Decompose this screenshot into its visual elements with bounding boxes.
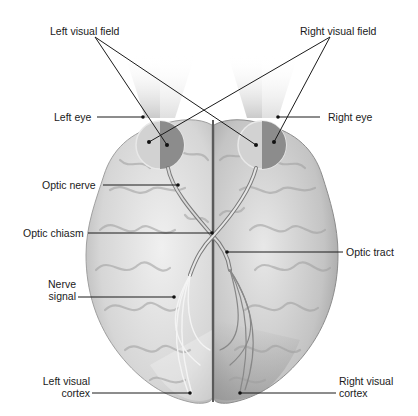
left-eye [136,121,184,169]
label-optic-tract: Optic tract [346,246,394,258]
label-left-visual-cortex: Left visual cortex [20,375,90,399]
label-left-visual-cortex-line1: Left visual [20,375,90,387]
label-optic-nerve: Optic nerve [42,179,96,191]
label-right-visual-field: Right visual field [300,25,376,37]
label-left-visual-cortex-line2: cortex [20,387,90,399]
label-right-visual-cortex-line2: cortex [339,387,393,399]
label-right-visual-cortex-line1: Right visual [339,375,393,387]
label-nerve-signal: Nerve signal [40,278,76,302]
label-right-visual-cortex: Right visual cortex [339,375,393,399]
right-eye [238,121,286,169]
brain-diagram [0,0,418,416]
label-optic-chiasm: Optic chiasm [23,227,84,239]
label-nerve-signal-line1: Nerve [40,278,76,290]
label-left-visual-field: Left visual field [50,25,119,37]
label-right-eye: Right eye [328,111,372,123]
label-nerve-signal-line2: signal [40,290,76,302]
label-left-eye: Left eye [54,111,91,123]
visual-field-cones [125,55,298,118]
